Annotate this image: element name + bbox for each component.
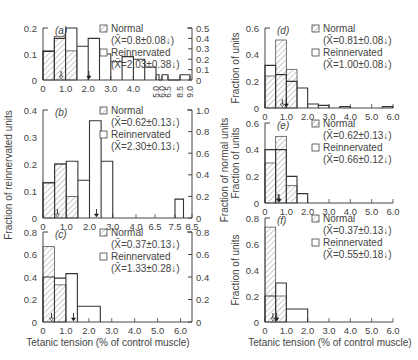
legend-label: Reinnervated	[111, 251, 170, 262]
legend-label: Normal	[323, 118, 355, 129]
right-y-tick-label: 0.6	[196, 249, 209, 260]
legend-swatch-open	[312, 144, 319, 151]
legend-stat: (X̄=1.33±0.28↓)	[111, 262, 180, 274]
x-tick-label: 8.5	[175, 86, 185, 98]
legend-swatch-open	[100, 131, 107, 138]
legend-stat: (X̄=2.03±0.38↓)	[111, 58, 180, 70]
x-tick-label: 7.5	[168, 221, 181, 232]
normal-bar	[286, 69, 297, 108]
normal-bar	[54, 36, 65, 80]
right-y-tick-label: 0.8	[196, 126, 209, 137]
right-y-tick-label: 0.2	[196, 191, 209, 202]
x-tick-label: 3.0	[104, 83, 117, 94]
panel-d: 00.20.40.601.02.03.04.05.06.0(d)Normal(X…	[230, 23, 400, 123]
panel-title: (f)	[277, 215, 286, 226]
panel-b: 00.10.20.30.400.20.40.60.81.001.02.03.04…	[24, 105, 209, 233]
legend-swatch-open	[100, 253, 107, 260]
y-tick-label: 0.4	[246, 144, 259, 155]
right-y-tick-label: 0	[196, 75, 201, 86]
mean-arrow-icon	[94, 214, 98, 217]
legend-stat: (X̄=0.62±0.13↓)	[111, 116, 180, 128]
y-tick-label: 0.1	[24, 186, 37, 197]
panel-title: (d)	[277, 25, 289, 36]
y-tick-label: 0.4	[246, 49, 259, 60]
x-tick-label: 9.0	[185, 86, 195, 98]
y-tick-label: 0	[254, 103, 259, 114]
normal-bar	[66, 51, 77, 80]
legend-swatch-hatched	[312, 25, 319, 32]
x-tick-label: 5.0	[151, 325, 164, 336]
x-tick-label: 0	[40, 325, 45, 336]
legend-swatch-hatched	[100, 107, 107, 114]
right-y-tick-label: 0.3	[196, 43, 209, 54]
x-tick-label: 2.0	[82, 325, 95, 336]
normal-bar	[265, 76, 276, 108]
mean-arrow-icon	[87, 76, 91, 79]
y-axis-label: Fraction of units	[230, 234, 241, 305]
normal-bar	[43, 51, 54, 80]
legend-swatch-open	[100, 49, 107, 56]
normal-bar	[265, 227, 276, 322]
right-y-tick-label: 0	[196, 317, 201, 328]
legend-label: Normal	[111, 23, 143, 34]
y-tick-label: 0.6	[246, 118, 259, 129]
right-y-tick-label: 0.2	[196, 54, 209, 65]
x-tick-label: 1.0	[59, 325, 72, 336]
x-tick-label: 0	[40, 83, 45, 94]
right-y-tick-label: 0.1	[196, 64, 209, 75]
y-tick-label: 0	[32, 317, 37, 328]
x-tick-label: 3.0	[105, 325, 118, 336]
x-tick-label: 2.0	[82, 83, 95, 94]
y-tick-label: 0.2	[246, 76, 259, 87]
x-tick-label: 6.0	[386, 111, 399, 122]
right-y-tick-label: 1.0	[196, 105, 209, 116]
right-y-tick-label: 0.8	[196, 227, 209, 238]
y-tick-label: 0.6	[246, 23, 259, 34]
normal-bar	[276, 136, 287, 203]
x-tick-label: 0	[262, 111, 267, 122]
x-tick-label: 4.0	[128, 325, 141, 336]
y-tick-label: 0.2	[246, 171, 259, 182]
x-tick-label: 5.0	[365, 325, 378, 336]
legend-label: Reinnervated	[323, 47, 382, 58]
x-tick-label: 1.0	[280, 325, 293, 336]
normal-bar	[43, 182, 55, 218]
legend-swatch-hatched	[100, 25, 107, 32]
x-tick-label: 0	[262, 325, 267, 336]
legend-stat: (X̄=0.62±0.13↓)	[323, 129, 392, 141]
y-tick-label: 0.8	[246, 213, 259, 224]
legend-label: Reinnervated	[111, 129, 170, 140]
normal-bar	[265, 163, 276, 203]
normal-bar	[66, 196, 78, 218]
mean-arrow-icon	[71, 318, 75, 321]
normal-bar	[55, 164, 67, 218]
panel-f: 00.20.40.60.801.02.03.04.05.06.0(f)Norma…	[230, 213, 400, 337]
legend-stat: (X̄=0.37±0.13↓)	[111, 238, 180, 250]
y-tick-label: 0.2	[246, 291, 259, 302]
panel-title: (b)	[55, 107, 67, 118]
x-tick-label: 2.0	[301, 325, 314, 336]
normal-bar	[43, 247, 54, 322]
legend-label: Normal	[323, 23, 355, 34]
panel-title: (c)	[55, 229, 67, 240]
x-tick-label: 0	[262, 206, 267, 217]
y-tick-label: 0	[254, 317, 259, 328]
y-tick-label: 0.2	[24, 294, 37, 305]
x-tick-label: 0	[40, 221, 45, 232]
right-y-axis-label: Fraction of normal units	[219, 118, 230, 223]
y-tick-label: 0	[32, 75, 37, 86]
legend-swatch-open	[312, 239, 319, 246]
y-tick-label: 0	[254, 198, 259, 209]
x-tick-label: 6.0	[386, 325, 399, 336]
x-tick-label: 6.0	[386, 206, 399, 217]
y-tick-label: 0.2	[24, 23, 37, 34]
legend-label: Reinnervated	[323, 142, 382, 153]
x-tick-label: 6.0	[174, 325, 187, 336]
panel-title: (e)	[277, 120, 289, 131]
legend-label: Normal	[323, 213, 355, 224]
legend-label: Normal	[111, 105, 143, 116]
legend-swatch-hatched	[312, 120, 319, 127]
panel-e: 00.20.40.601.02.03.04.05.06.0(e)Normal(X…	[230, 118, 400, 218]
y-tick-label: 0.6	[24, 249, 37, 260]
normal-bar	[286, 186, 297, 203]
